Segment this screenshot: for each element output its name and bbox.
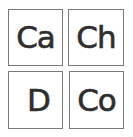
tile-label: D: [21, 85, 50, 116]
tile-label: Ca: [16, 22, 55, 53]
tile-label: Ch: [76, 22, 115, 53]
letter-tile-d[interactable]: D: [8, 71, 63, 129]
tile-label: Co: [77, 85, 116, 116]
letter-tile-ch[interactable]: Ch: [68, 9, 124, 66]
letter-tile-co[interactable]: Co: [69, 71, 124, 129]
letter-tile-ca[interactable]: Ca: [8, 9, 63, 66]
